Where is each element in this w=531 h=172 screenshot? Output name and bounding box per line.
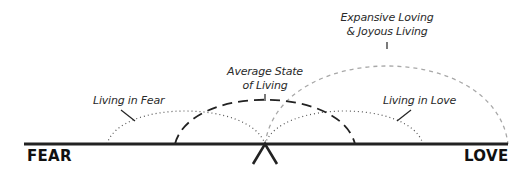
fear-pole-label: FEAR (27, 147, 72, 165)
average-state-arc (175, 100, 355, 144)
average-state-label-line1: Average State (215, 65, 315, 79)
average-state-label: Average State of Living (215, 65, 315, 93)
average-state-label-line2: of Living (215, 79, 315, 93)
love-leader-line (397, 110, 411, 121)
expansive-loving-label-line1: Expansive Loving (332, 11, 442, 25)
living-in-love-arc (265, 111, 423, 144)
fear-leader-line (121, 110, 135, 121)
expansive-loving-label-line2: & Joyous Living (332, 25, 442, 39)
living-in-love-label: Living in Love (383, 94, 456, 108)
living-in-fear-label: Living in Fear (93, 94, 164, 108)
expansive-loving-label: Expansive Loving & Joyous Living (332, 11, 442, 39)
love-pole-label: LOVE (464, 147, 508, 165)
living-in-fear-arc (107, 111, 265, 144)
fear-love-diagram: Living in Fear Living in Love Average St… (0, 0, 531, 172)
fulcrum (253, 144, 277, 164)
